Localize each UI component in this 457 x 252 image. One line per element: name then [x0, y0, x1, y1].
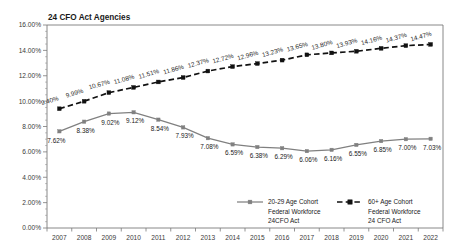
x-axis-tick-label: 2021: [399, 234, 414, 241]
data-point-marker: [305, 53, 309, 57]
data-point-marker: [305, 149, 308, 152]
data-label: 14.16%: [360, 34, 383, 47]
data-label: 7.00%: [398, 144, 416, 151]
data-label: 6.55%: [349, 150, 367, 157]
x-axis-tick-label: 2018: [324, 234, 339, 241]
data-label: 7.62%: [47, 137, 65, 144]
data-point-marker: [181, 76, 185, 80]
data-label: 6.16%: [324, 155, 342, 162]
data-point-marker: [132, 86, 136, 90]
data-point-marker: [181, 126, 184, 129]
x-axis: 2007200820092010201120122013201420152016…: [47, 228, 443, 241]
x-axis-tick-label: 2014: [225, 234, 240, 241]
data-point-marker: [82, 99, 86, 103]
data-point-marker: [156, 80, 160, 84]
y-axis: 0.00%2.00%4.00%6.00%8.00%10.00%12.00%14.…: [19, 21, 47, 231]
data-point-marker: [57, 107, 61, 111]
x-axis-tick-label: 2016: [275, 234, 290, 241]
y-axis-tick-label: 12.00%: [19, 72, 42, 79]
data-point-marker: [404, 137, 407, 140]
legend-swatch-marker: [348, 200, 352, 204]
x-axis-tick-label: 2019: [349, 234, 364, 241]
x-axis-tick-label: 2013: [201, 234, 216, 241]
y-axis-tick-label: 2.00%: [22, 199, 41, 206]
data-label: 8.38%: [77, 127, 95, 134]
data-point-marker: [280, 58, 284, 62]
y-axis-tick-label: 16.00%: [19, 21, 42, 28]
legend-item-label: Federal Workforce: [268, 208, 321, 215]
data-label: 6.59%: [225, 149, 243, 156]
data-label: 12.37%: [187, 56, 210, 69]
y-axis-tick-label: 10.00%: [19, 98, 42, 105]
data-label: 14.37%: [385, 31, 408, 44]
x-axis-tick-label: 2017: [300, 234, 315, 241]
data-point-marker: [280, 146, 283, 149]
chart-title: 24 CFO Act Agencies: [48, 13, 131, 22]
x-axis-tick-label: 2012: [176, 234, 191, 241]
data-label: 11.08%: [113, 73, 136, 86]
data-point-marker: [82, 120, 85, 123]
x-axis-tick-label: 2015: [250, 234, 265, 241]
data-label: 13.65%: [286, 40, 309, 53]
data-label: 12.72%: [212, 52, 235, 65]
data-label: 6.06%: [299, 156, 317, 163]
data-label: 7.08%: [200, 143, 218, 150]
data-label: 11.51%: [138, 67, 161, 80]
legend-item-label: Federal Workforce: [368, 208, 421, 215]
data-label: 6.38%: [250, 152, 268, 159]
y-axis-tick-label: 4.00%: [22, 174, 41, 181]
data-label: 9.99%: [65, 87, 85, 99]
y-axis-tick-label: 8.00%: [22, 123, 41, 130]
data-label: 14.47%: [410, 30, 433, 43]
x-axis-tick-label: 2010: [126, 234, 141, 241]
x-axis-tick-label: 2020: [374, 234, 389, 241]
data-point-marker: [354, 49, 358, 53]
data-point-marker: [256, 145, 259, 148]
data-label: 13.80%: [311, 38, 334, 51]
legend-item-label: 20-29 Age Cohort: [268, 198, 318, 206]
y-axis-tick-label: 6.00%: [22, 148, 41, 155]
x-axis-tick-label: 2009: [102, 234, 117, 241]
data-point-marker: [107, 112, 110, 115]
data-label: 10.67%: [88, 78, 111, 91]
data-label: 9.02%: [101, 119, 119, 126]
data-point-marker: [206, 69, 210, 73]
chart-container: 24 CFO Act Agencies 0.00%2.00%4.00%6.00%…: [0, 0, 457, 252]
data-label: 6.85%: [374, 146, 392, 153]
data-point-marker: [231, 143, 234, 146]
data-point-marker: [157, 118, 160, 121]
data-point-marker: [379, 139, 382, 142]
data-label: 9.40%: [40, 94, 60, 106]
x-axis-tick-label: 2008: [77, 234, 92, 241]
data-label: 6.29%: [275, 153, 293, 160]
data-label: 13.93%: [335, 36, 358, 49]
data-point-marker: [355, 143, 358, 146]
data-label: 11.86%: [162, 63, 185, 76]
data-point-marker: [107, 91, 111, 95]
data-point-marker: [206, 136, 209, 139]
data-point-marker: [58, 130, 61, 133]
chart-legend: 20-29 Age CohortFederal Workforce24CFO A…: [237, 198, 421, 224]
legend-swatch-marker: [248, 200, 252, 204]
data-point-marker: [429, 137, 432, 140]
y-axis-tick-label: 0.00%: [22, 224, 41, 231]
data-point-marker: [255, 62, 259, 66]
x-axis-tick-label: 2007: [52, 234, 67, 241]
legend-item-label: 24CFO Act: [268, 217, 299, 224]
x-axis-tick-label: 2022: [423, 234, 438, 241]
data-label: 8.54%: [151, 125, 169, 132]
x-axis-tick-label: 2011: [151, 234, 166, 241]
data-point-marker: [132, 111, 135, 114]
data-label: 13.23%: [261, 45, 284, 58]
data-point-marker: [404, 44, 408, 48]
data-point-marker: [429, 43, 433, 47]
data-point-marker: [231, 65, 235, 69]
data-label: 9.12%: [126, 117, 144, 124]
legend-item-label: 24 CFO Act: [368, 217, 401, 224]
line-chart: 24 CFO Act Agencies 0.00%2.00%4.00%6.00%…: [0, 0, 457, 252]
legend-item-label: 60+ Age Cohort: [368, 198, 413, 206]
data-point-marker: [379, 46, 383, 50]
data-label: 7.03%: [423, 144, 441, 151]
data-point-marker: [330, 148, 333, 151]
data-label: 12.96%: [236, 49, 259, 62]
